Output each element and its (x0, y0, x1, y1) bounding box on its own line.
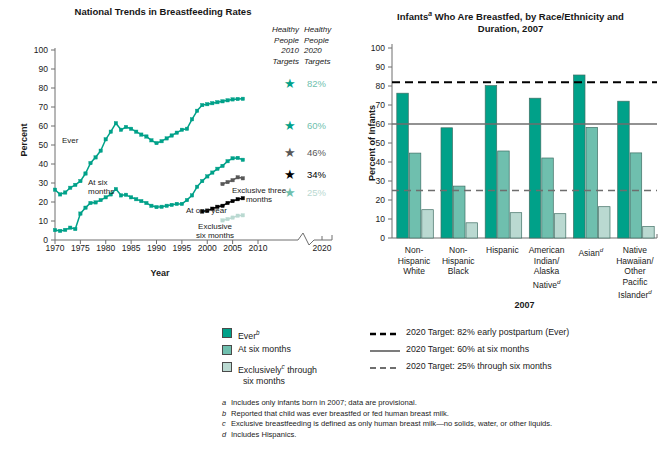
series-point (175, 202, 178, 205)
legend-swatch (222, 362, 232, 372)
bar (554, 214, 566, 238)
bar (630, 153, 642, 238)
right-chart-panel: Infantsa Who Are Breastfed, by Race/Ethn… (345, 0, 671, 320)
right-chart-x-axis-title: 2007 (392, 300, 657, 310)
series-point (195, 185, 198, 188)
series-label-at-one-year: At one year (186, 206, 227, 215)
series-point (201, 179, 204, 182)
series-point (241, 158, 244, 161)
footnotes: aIncludes only infants born in 2007; dat… (222, 398, 662, 440)
series-point (129, 196, 132, 199)
series-point (155, 205, 158, 208)
series-point (180, 128, 183, 131)
series-point (150, 204, 153, 207)
bar (466, 223, 478, 238)
bar (586, 127, 598, 238)
series-point (64, 228, 67, 231)
bar (529, 98, 541, 238)
bar (542, 158, 554, 238)
footnote: bReported that child was ever breastfed … (222, 409, 662, 420)
series-point (165, 137, 168, 140)
series-point (79, 179, 82, 182)
series-point (84, 172, 87, 175)
hp-target-star: ★ (284, 186, 296, 199)
series-point (190, 194, 193, 197)
series-point (231, 98, 234, 101)
series-line-at-six-months (55, 158, 243, 231)
bar (574, 75, 586, 238)
series-point (94, 201, 97, 204)
legend-label: Exclusivelyc through six months (238, 361, 348, 387)
series-point (58, 229, 61, 232)
series-point (74, 183, 77, 186)
series-point (160, 140, 163, 143)
legend-swatch (222, 345, 232, 355)
bar (485, 86, 497, 238)
legend-label: At six months (238, 344, 348, 355)
legend-line-sample (370, 328, 402, 340)
series-point (140, 199, 143, 202)
hp-2020-target-value: 60% (307, 120, 326, 131)
series-point (206, 175, 209, 178)
series-point (231, 157, 234, 160)
legend-label: Everb (238, 327, 348, 342)
hp-2020-target-value: 34% (307, 169, 326, 180)
series-point (236, 97, 239, 100)
series-point (180, 202, 183, 205)
series-point (241, 97, 244, 100)
legend-target-label: 2020 Target: 82% early postpartum (Ever) (406, 327, 671, 338)
series-point (129, 127, 132, 130)
category-label: NativeHawaiian/OtherPacificIslanderd (607, 245, 663, 300)
bar (498, 151, 510, 238)
series-point (190, 118, 193, 121)
series-point (64, 191, 67, 194)
series-point (236, 176, 239, 179)
series-point (104, 196, 107, 199)
hp-2020-target-value: 82% (307, 78, 326, 89)
hp-target-star: ★ (284, 168, 296, 181)
series-point (170, 134, 173, 137)
series-point (140, 133, 143, 136)
series-point (226, 217, 229, 220)
series-point (69, 186, 72, 189)
footnote: dIncludes Hispanics. (222, 430, 662, 441)
hp-2020-target-value: 46% (307, 147, 326, 158)
series-point (79, 212, 82, 215)
legend-line-sample (370, 362, 402, 374)
series-point (58, 193, 61, 196)
hp-target-star: ★ (284, 77, 296, 90)
series-point (236, 156, 239, 159)
hp-target-star: ★ (284, 119, 296, 132)
series-point (231, 216, 234, 219)
series-point (89, 161, 92, 164)
series-point (114, 122, 117, 125)
hp-2020-target-value: 25% (307, 187, 326, 198)
series-point (211, 102, 214, 105)
right-chart-plot (345, 0, 671, 260)
series-point (185, 127, 188, 130)
bar (599, 207, 611, 238)
legend-target-label: 2020 Target: 25% through six months (406, 361, 671, 372)
legend-target-label: 2020 Target: 60% at six months (406, 344, 671, 355)
legend-swatch (222, 328, 232, 338)
series-point (216, 167, 219, 170)
footnote: aIncludes only infants born in 2007; dat… (222, 398, 662, 409)
series-point (165, 204, 168, 207)
series-point (221, 164, 224, 167)
series-point (69, 226, 72, 229)
series-point (216, 101, 219, 104)
bar (643, 227, 655, 238)
bar (618, 101, 630, 238)
series-point (74, 227, 77, 230)
series-label-at-six-months: At sixmonths (88, 178, 122, 196)
hp-2010-header: HealthyPeople2010Targets (259, 25, 299, 67)
series-point (185, 198, 188, 201)
series-point (160, 205, 163, 208)
series-point (84, 206, 87, 209)
left-chart-panel: National Trends in Breastfeeding Rates P… (0, 0, 345, 300)
series-point (94, 156, 97, 159)
bar (454, 186, 466, 238)
series-point (109, 130, 112, 133)
series-point (231, 179, 234, 182)
bar (409, 153, 421, 238)
